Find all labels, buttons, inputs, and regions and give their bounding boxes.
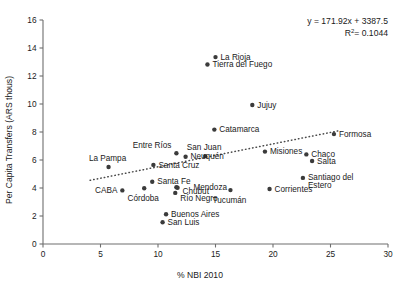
data-point[interactable] xyxy=(150,180,154,184)
data-point[interactable] xyxy=(310,159,314,163)
data-point[interactable] xyxy=(174,151,178,155)
data-point-label: Jujuy xyxy=(257,101,277,110)
data-point[interactable] xyxy=(175,186,179,190)
x-axis: 051015202530 xyxy=(41,244,393,259)
r-squared-annotation: R2= 0.1044 xyxy=(345,28,388,38)
data-point[interactable] xyxy=(120,188,124,192)
data-point-label: Misiones xyxy=(270,147,302,156)
y-axis: 0246810121416 xyxy=(27,15,43,249)
data-point-label: La Pampa xyxy=(89,154,127,163)
data-point[interactable] xyxy=(228,188,232,192)
data-point[interactable] xyxy=(263,149,267,153)
data-point[interactable] xyxy=(160,220,164,224)
data-point[interactable] xyxy=(212,127,216,131)
y-tick-label: 0 xyxy=(32,239,37,249)
data-point[interactable] xyxy=(106,165,110,169)
data-point-label: Entre Ríos xyxy=(133,141,172,150)
data-point[interactable] xyxy=(332,132,336,136)
data-point[interactable] xyxy=(173,191,177,195)
data-point-label: Corrientes xyxy=(275,185,313,194)
data-point-label: Formosa xyxy=(339,130,372,139)
x-tick-label: 15 xyxy=(211,249,221,259)
data-point-label: San Juan xyxy=(187,143,222,152)
y-tick-label: 16 xyxy=(27,15,37,25)
data-point-label: Córdoba xyxy=(127,194,159,203)
y-tick-label: 4 xyxy=(32,183,37,193)
data-point[interactable] xyxy=(267,187,271,191)
x-tick-label: 30 xyxy=(383,249,393,259)
data-point-label: Tucumán xyxy=(213,196,247,205)
x-tick-label: 0 xyxy=(41,249,46,259)
data-point[interactable] xyxy=(301,176,305,180)
y-tick-label: 10 xyxy=(27,99,37,109)
y-axis-title: Per Capita Transfers (ARS thous) xyxy=(4,76,14,204)
data-point-label: San Luis xyxy=(168,218,200,227)
x-axis-ticks: 051015202530 xyxy=(41,244,393,259)
y-tick-label: 12 xyxy=(27,71,37,81)
chart-canvas: 0246810121416 051015202530 La RiojaTierr… xyxy=(0,0,400,285)
x-axis-title: % NBI 2010 xyxy=(177,270,223,280)
data-point[interactable] xyxy=(142,186,146,190)
y-tick-label: 8 xyxy=(32,127,37,137)
data-point[interactable] xyxy=(304,152,308,156)
data-point[interactable] xyxy=(164,212,168,216)
data-point-label: Santa Fe xyxy=(157,177,191,186)
data-point[interactable] xyxy=(250,103,254,107)
data-point-label: Tierra del Fuego xyxy=(212,60,272,69)
data-point[interactable] xyxy=(151,163,155,167)
y-axis-ticks: 0246810121416 xyxy=(27,15,43,249)
x-tick-label: 20 xyxy=(268,249,278,259)
x-tick-label: 5 xyxy=(98,249,103,259)
y-tick-label: 6 xyxy=(32,155,37,165)
y-tick-label: 2 xyxy=(32,211,37,221)
x-tick-label: 25 xyxy=(326,249,336,259)
data-point[interactable] xyxy=(183,155,187,159)
y-tick-label: 14 xyxy=(27,43,37,53)
data-point-label: Santa Cruz xyxy=(158,161,199,170)
data-point-label: Catamarca xyxy=(219,125,259,134)
x-tick-label: 10 xyxy=(153,249,163,259)
data-point[interactable] xyxy=(213,55,217,59)
data-point[interactable] xyxy=(205,62,209,66)
regression-equation: y = 171.92x + 3387.5 xyxy=(307,16,388,26)
data-point-label: CABA xyxy=(95,186,118,195)
r-squared-value: = 0.1044 xyxy=(354,28,388,38)
data-points-layer: La RiojaTierra del FuegoJujuyCatamarcaFo… xyxy=(89,53,372,227)
scatter-chart: 0246810121416 051015202530 La RiojaTierr… xyxy=(0,0,400,285)
data-point-label: Salta xyxy=(317,157,336,166)
